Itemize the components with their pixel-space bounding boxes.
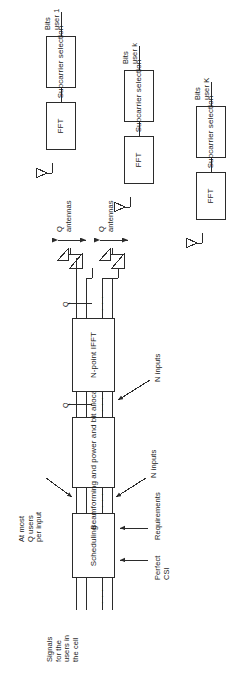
- output-label-user1: Bits user 1: [44, 9, 61, 30]
- annotation-q-antennas-1: Q antennas: [56, 200, 73, 232]
- annotation-n-inputs-lower: N inputs: [150, 450, 159, 478]
- output-label-userK: Bits user K: [194, 78, 211, 100]
- block-fft-userK[interactable]: FFT: [196, 172, 226, 220]
- annotation-q-antennas-2: Q antennas: [98, 200, 115, 232]
- annotation-requirements: Requirements: [154, 492, 163, 540]
- block-n-point-ifft[interactable]: N-point IFFT: [72, 318, 115, 392]
- output-label-userk: Bits user k: [122, 43, 139, 64]
- annotation-input-signals: Signals for the users in the cell: [46, 635, 81, 662]
- block-subcarrier-selection-userk-label: Subcarrier selection: [135, 60, 144, 133]
- annotation-perfect-csi: Perfect CSI: [154, 556, 171, 580]
- annotation-q-marker-ifft-top: Q: [62, 301, 70, 307]
- block-fft-user1-label: FFT: [57, 119, 66, 134]
- annotation-n-inputs-upper: N inputs: [154, 354, 163, 382]
- annotation-at-most-q-users: At most Q users per input: [18, 512, 44, 542]
- block-fft-user1[interactable]: FFT: [46, 102, 76, 150]
- block-subcarrier-selection-user1[interactable]: Subcarrier selection: [46, 36, 76, 88]
- block-fft-userK-label: FFT: [207, 189, 216, 204]
- bus-ellipsis-scheduling: · · ·: [99, 492, 107, 508]
- block-beamforming-label: Beamforming and power and bit allocation: [89, 376, 98, 529]
- block-fft-userk-label: FFT: [135, 153, 144, 168]
- annotation-q-marker-ifft-bottom: Q: [62, 402, 70, 408]
- block-subcarrier-selection-userK-label: Subcarrier selection: [207, 96, 216, 169]
- block-subcarrier-selection-userk[interactable]: Subcarrier selection: [124, 70, 154, 122]
- block-scheduling-label: Scheduling: [89, 525, 98, 566]
- block-subcarrier-selection-userK[interactable]: Subcarrier selection: [196, 106, 226, 158]
- bus-ellipsis-beamforming: · · ·: [99, 396, 107, 412]
- bus-ellipsis-input: · · ·: [99, 588, 107, 604]
- diagram-canvas: Scheduling Beamforming and power and bit…: [0, 0, 251, 678]
- block-subcarrier-selection-user1-label: Subcarrier selection: [57, 26, 66, 99]
- block-beamforming[interactable]: Beamforming and power and bit allocation: [72, 417, 115, 488]
- bus-ellipsis-ifft: · · ·: [99, 295, 107, 311]
- block-n-point-ifft-label: N-point IFFT: [89, 332, 98, 378]
- block-fft-userk[interactable]: FFT: [124, 136, 154, 184]
